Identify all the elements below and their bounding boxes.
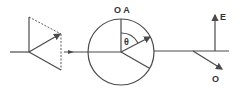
dashed-top-line (29, 17, 61, 34)
analyzer-axes-label: O A (114, 5, 130, 15)
resultant-vector-arrow (29, 34, 60, 52)
lower-axis-line (121, 52, 149, 68)
extraordinary-label: E (220, 12, 226, 22)
lower-component-line (29, 52, 61, 70)
beam-direction-arrow-icon (68, 50, 74, 54)
angle-label: θ (124, 37, 129, 47)
ordinary-label: O (212, 74, 219, 84)
polarization-diagram: O A θ E O (0, 0, 244, 95)
ordinary-ray-arrow (193, 51, 222, 69)
